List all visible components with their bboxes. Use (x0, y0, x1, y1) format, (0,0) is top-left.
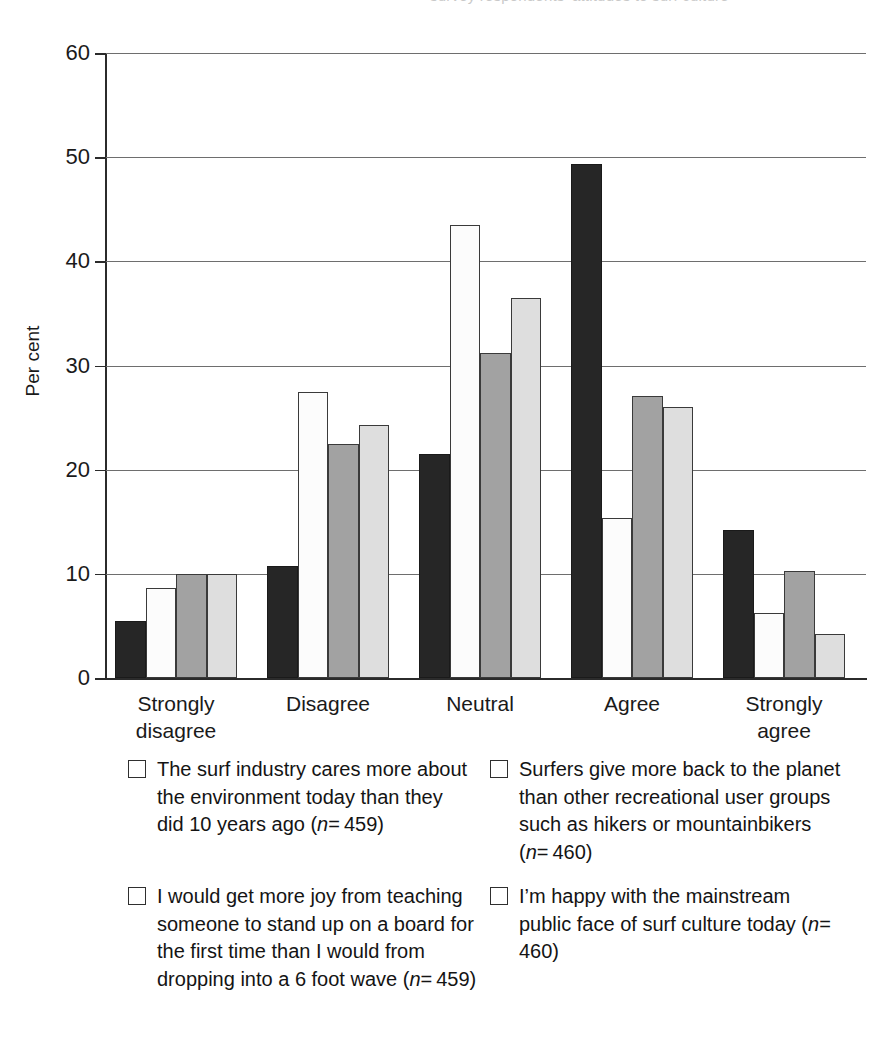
x-category-label-1: Disagree (248, 690, 408, 717)
bar-2-series-2 (450, 225, 481, 678)
x-category-label-3: Agree (552, 690, 712, 717)
y-tick-label-20: 20 (36, 459, 90, 481)
bar-3-series-2 (602, 518, 633, 678)
y-tick-label-0: 0 (36, 667, 90, 689)
y-tick-60 (95, 53, 106, 55)
y-tick-20 (95, 470, 106, 472)
legend-item-3: I would get more joy from teaching someo… (128, 883, 478, 993)
series-3-midgray-swatch (128, 887, 146, 905)
bar-3-series-1 (571, 164, 602, 678)
bar-4-series-4 (815, 634, 846, 678)
legend-label-2: Surfers give more back to the planet tha… (519, 756, 850, 866)
gridline-50 (106, 157, 866, 158)
x-axis-line (105, 678, 867, 680)
plot-area (106, 53, 866, 678)
bar-1-series-4 (359, 425, 390, 678)
y-tick-label-10: 10 (36, 563, 90, 585)
x-category-line: Disagree (248, 690, 408, 717)
legend-item-4: I’m happy with the mainstream public fac… (490, 883, 845, 966)
bar-4-series-3 (784, 571, 815, 678)
bar-0-series-4 (207, 574, 238, 678)
legend-item-2: Surfers give more back to the planet tha… (490, 756, 850, 866)
bar-3-series-3 (632, 396, 663, 678)
bar-2-series-3 (480, 353, 511, 678)
bar-3-series-4 (663, 407, 694, 678)
y-tick-50 (95, 157, 106, 159)
bar-2-series-4 (511, 298, 542, 678)
y-tick-0 (95, 678, 106, 680)
legend-label-3: I would get more joy from teaching someo… (157, 883, 478, 993)
legend-label-1: The surf industry cares more about the e… (157, 756, 473, 839)
y-tick-10 (95, 574, 106, 576)
x-category-label-2: Neutral (400, 690, 560, 717)
bar-4-series-1 (723, 530, 754, 678)
x-category-line: Neutral (400, 690, 560, 717)
bar-0-series-1 (115, 621, 146, 678)
gridline-40 (106, 261, 866, 262)
x-category-label-0: Stronglydisagree (96, 690, 256, 744)
x-category-line: Strongly (96, 690, 256, 717)
y-tick-label-60: 60 (36, 42, 90, 64)
bar-1-series-3 (328, 444, 359, 678)
x-category-line: Agree (552, 690, 712, 717)
series-4-lightgray-swatch (490, 887, 508, 905)
y-tick-label-40: 40 (36, 250, 90, 272)
y-tick-label-50: 50 (36, 146, 90, 168)
x-category-line: agree (704, 717, 864, 744)
legend-item-1: The surf industry cares more about the e… (128, 756, 473, 839)
bar-chart: Per cent 0102030405060 StronglydisagreeD… (0, 0, 881, 760)
legend-label-4: I’m happy with the mainstream public fac… (519, 883, 845, 966)
bar-0-series-2 (146, 588, 177, 678)
bar-1-series-1 (267, 566, 298, 679)
series-2-white-swatch (490, 760, 508, 778)
bar-1-series-2 (298, 392, 329, 678)
x-category-line: Strongly (704, 690, 864, 717)
bar-2-series-1 (419, 454, 450, 678)
y-tick-40 (95, 261, 106, 263)
y-tick-30 (95, 366, 106, 368)
y-tick-label-30: 30 (36, 355, 90, 377)
chart-legend: The surf industry cares more about the e… (0, 752, 881, 1052)
gridline-60 (106, 53, 866, 54)
bar-0-series-3 (176, 574, 207, 678)
series-1-dark-swatch (128, 760, 146, 778)
x-category-label-4: Stronglyagree (704, 690, 864, 744)
x-category-line: disagree (96, 717, 256, 744)
bar-4-series-2 (754, 613, 785, 678)
